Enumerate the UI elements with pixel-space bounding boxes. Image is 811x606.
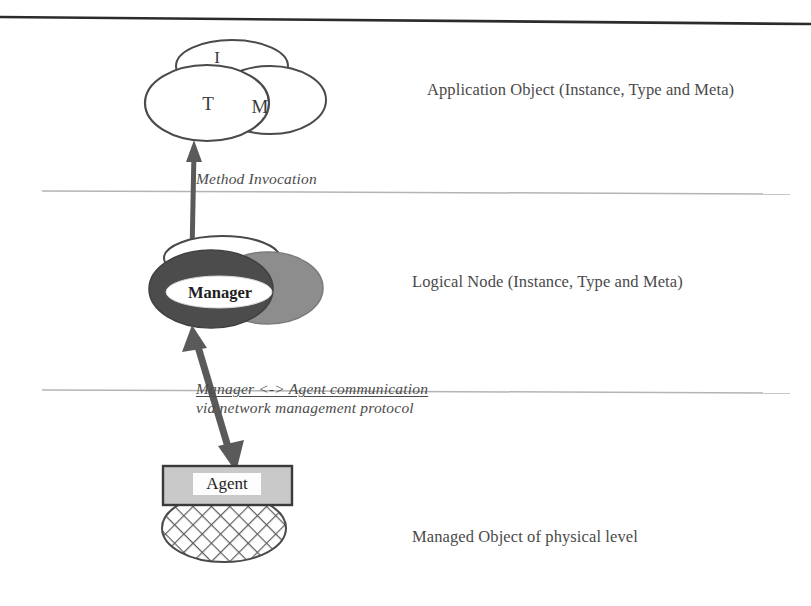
tier-caption-application: Application Object (Instance, Type and M… — [427, 80, 734, 100]
node-label-type: T — [196, 93, 220, 115]
annotation-manager-agent-line2: via network management protocol — [196, 398, 428, 417]
node-label-agent: Agent — [193, 473, 261, 495]
logical-node-group — [149, 236, 323, 328]
annotation-manager-agent-line1: Manager <-> Agent communication — [196, 379, 428, 398]
node-label-manager: Manager — [168, 283, 272, 303]
tier-caption-managed: Managed Object of physical level — [412, 527, 638, 547]
annotation-method-invocation: Method Invocation — [196, 170, 317, 188]
tier-divider-upper — [42, 191, 790, 194]
tier-caption-logical: Logical Node (Instance, Type and Meta) — [412, 272, 683, 292]
page-top-rule — [0, 17, 811, 24]
application-object-group — [145, 40, 326, 141]
node-label-meta: M — [247, 96, 273, 118]
annotation-manager-agent: Manager <-> Agent communication via netw… — [196, 379, 428, 417]
node-label-instance: I — [205, 48, 229, 68]
